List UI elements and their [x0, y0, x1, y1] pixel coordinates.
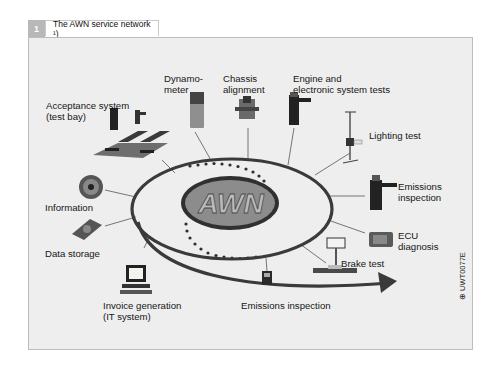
engine-tester-icon: [289, 92, 311, 125]
label-lighting-test: Lighting test: [369, 131, 421, 142]
label-brake-test: Brake test: [341, 259, 384, 270]
emissions-analyzer-icon: [262, 271, 272, 285]
label-data-storage: Data storage: [45, 249, 100, 260]
label-emissions-inspection-bottom: Emissions inspection: [241, 301, 331, 312]
label-invoice-generation: Invoice generation (IT system): [103, 301, 181, 322]
information-cd-icon: [79, 175, 103, 199]
label-chassis-alignment: Chassis alignment: [223, 74, 265, 95]
label-acceptance-system: Acceptance system (test bay): [46, 101, 129, 122]
label-dynamometer: Dynamo- meter: [164, 74, 203, 95]
emissions-inspection-right-icon: [370, 175, 397, 210]
awn-logo: AWN: [181, 176, 279, 230]
computer-icon: [120, 265, 152, 294]
label-emissions-inspection-right: Emissions inspection: [398, 182, 442, 203]
chassis-alignment-icon: [235, 96, 259, 119]
figure-code: ⊕ UWT0077E: [458, 252, 467, 300]
arrow-head-icon: [378, 272, 397, 293]
label-engine-tests: Engine and electronic system tests: [293, 74, 390, 95]
label-ecu-diagnosis: ECU diagnosis: [398, 231, 439, 252]
ecu-diagnosis-icon: [369, 232, 393, 247]
svg-text:AWN: AWN: [197, 188, 264, 219]
hard-disk-icon: [72, 219, 102, 240]
label-information: Information: [45, 203, 93, 214]
dynamometer-icon: [190, 92, 204, 128]
